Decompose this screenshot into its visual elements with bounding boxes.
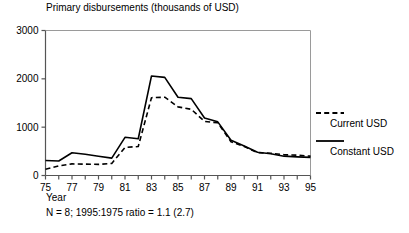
svg-text:89: 89 bbox=[225, 182, 237, 193]
svg-text:2000: 2000 bbox=[16, 73, 39, 84]
x-axis-tick-labels: 7577798183858789919395 bbox=[40, 182, 317, 193]
legend-item-current-usd: Current USD bbox=[330, 118, 387, 130]
svg-text:91: 91 bbox=[252, 182, 264, 193]
axis-ticks bbox=[42, 31, 311, 180]
svg-text:77: 77 bbox=[66, 182, 78, 193]
svg-text:79: 79 bbox=[93, 182, 105, 193]
legend-item-constant-usd: Constant USD bbox=[330, 146, 394, 158]
svg-text:3000: 3000 bbox=[16, 25, 39, 36]
svg-text:95: 95 bbox=[305, 182, 317, 193]
chart-page: Primary disbursements (thousands of USD)… bbox=[0, 0, 409, 233]
data-series bbox=[46, 76, 311, 169]
chart-note: N = 8; 1995:1975 ratio = 1.1 (2.7) bbox=[46, 207, 194, 219]
svg-text:1000: 1000 bbox=[16, 122, 39, 133]
svg-text:83: 83 bbox=[146, 182, 158, 193]
series-line-constant-usd bbox=[46, 76, 311, 161]
svg-text:85: 85 bbox=[172, 182, 184, 193]
svg-text:87: 87 bbox=[199, 182, 211, 193]
y-axis-tick-labels: 0100020003000 bbox=[16, 25, 39, 181]
svg-text:93: 93 bbox=[278, 182, 290, 193]
series-line-current-usd bbox=[46, 97, 311, 169]
svg-text:75: 75 bbox=[40, 182, 52, 193]
svg-text:81: 81 bbox=[119, 182, 131, 193]
x-axis-label: Year bbox=[46, 192, 66, 204]
svg-text:0: 0 bbox=[33, 170, 39, 181]
